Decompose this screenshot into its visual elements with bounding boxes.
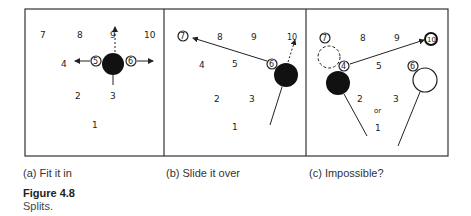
ghost-ball [318, 46, 340, 68]
panel-b: 7 8 9 10 6 4 5 2 3 1 [178, 31, 298, 132]
panel-a: 7 8 9 10 4 5 6 2 3 1 [40, 27, 156, 130]
caption-c: (c) Impossible? [309, 167, 384, 179]
alt-ball-path [398, 92, 420, 146]
pin-4: 4 [199, 60, 205, 70]
ball-path [344, 94, 367, 136]
pin-1: 1 [92, 120, 98, 130]
dashed-arrow [288, 40, 295, 62]
diagram-frame [25, 9, 448, 156]
pin-8: 8 [360, 33, 366, 43]
svg-text:5: 5 [93, 57, 98, 66]
panel-c: 7 8 9 10 4 5 6 2 3 or 1 [318, 33, 437, 146]
pin-4: 4 [61, 59, 67, 69]
pin-1: 1 [232, 122, 238, 132]
pin-8: 8 [217, 32, 223, 42]
pin-2: 2 [214, 94, 220, 104]
pin-3: 3 [393, 94, 399, 104]
ball-path [270, 87, 282, 125]
splits-diagram: 7 8 9 10 4 5 6 2 3 1 7 8 9 10 6 4 5 2 3 … [0, 0, 471, 165]
ball [102, 53, 124, 75]
pin-1: 1 [375, 123, 381, 133]
pin-2: 2 [357, 94, 363, 104]
figure-description: Splits. [23, 200, 53, 212]
caption-b: (b) Slide it over [166, 167, 240, 179]
caption-a: (a) Fit it in [23, 167, 72, 179]
pin-9: 9 [394, 33, 400, 43]
pin-5: 5 [232, 59, 238, 69]
or-label: or [374, 107, 381, 115]
svg-text:4: 4 [341, 62, 346, 71]
pin-5: 5 [376, 61, 382, 71]
svg-text:7: 7 [180, 32, 185, 41]
ball [274, 63, 298, 87]
figure-label: Figure 4.8 [23, 187, 75, 199]
alt-ball [413, 68, 437, 92]
pin-3: 3 [249, 94, 255, 104]
svg-text:6: 6 [410, 62, 415, 71]
pin-7: 7 [40, 30, 46, 40]
pin-9: 9 [251, 32, 257, 42]
pin-8: 8 [77, 30, 83, 40]
pin-2: 2 [75, 91, 81, 101]
svg-text:6: 6 [128, 57, 133, 66]
pin-10: 10 [287, 33, 297, 42]
pin-3: 3 [110, 91, 116, 101]
svg-text:10: 10 [427, 36, 436, 44]
ball [326, 71, 350, 95]
arrow-to-10 [350, 40, 424, 64]
svg-text:7: 7 [322, 34, 327, 43]
svg-text:6: 6 [269, 60, 274, 69]
pin-10: 10 [144, 30, 156, 40]
